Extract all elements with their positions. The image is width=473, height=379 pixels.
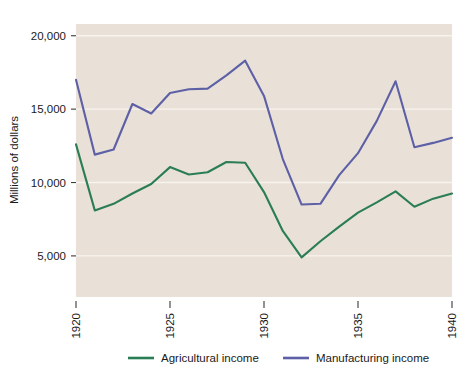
y-tick-label: 15,000 — [31, 103, 66, 115]
chart-container: 5,00010,00015,00020,000 1920192519301935… — [0, 0, 473, 379]
x-tick-label: 1930 — [258, 313, 270, 339]
legend-label-0: Agricultural income — [161, 352, 259, 364]
legend-label-1: Manufacturing income — [316, 352, 429, 364]
y-axis-title: Millions of dollars — [8, 116, 20, 204]
x-tick-label: 1940 — [446, 313, 458, 339]
x-tick-label: 1920 — [70, 313, 82, 339]
y-tick-label: 10,000 — [31, 177, 66, 189]
y-tick-label: 5,000 — [37, 250, 66, 262]
x-tick-label: 1935 — [352, 313, 364, 339]
income-line-chart: 5,00010,00015,00020,000 1920192519301935… — [0, 0, 473, 379]
x-tick-label: 1925 — [164, 313, 176, 339]
y-tick-label: 20,000 — [31, 30, 66, 42]
